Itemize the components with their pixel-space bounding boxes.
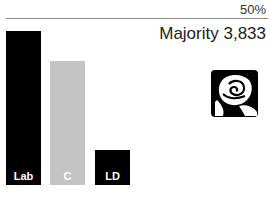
majority-text: Majority 3,833	[159, 24, 266, 44]
bar-c: C	[50, 61, 85, 185]
bar-label: C	[50, 170, 85, 182]
bar-ld: LD	[95, 150, 130, 185]
labour-rose-icon	[211, 70, 258, 117]
bar-lab: Lab	[6, 31, 41, 185]
reference-label: 50%	[240, 2, 266, 17]
bar-label: LD	[95, 170, 130, 182]
reference-line-50	[6, 18, 268, 19]
bar-label: Lab	[6, 170, 41, 182]
